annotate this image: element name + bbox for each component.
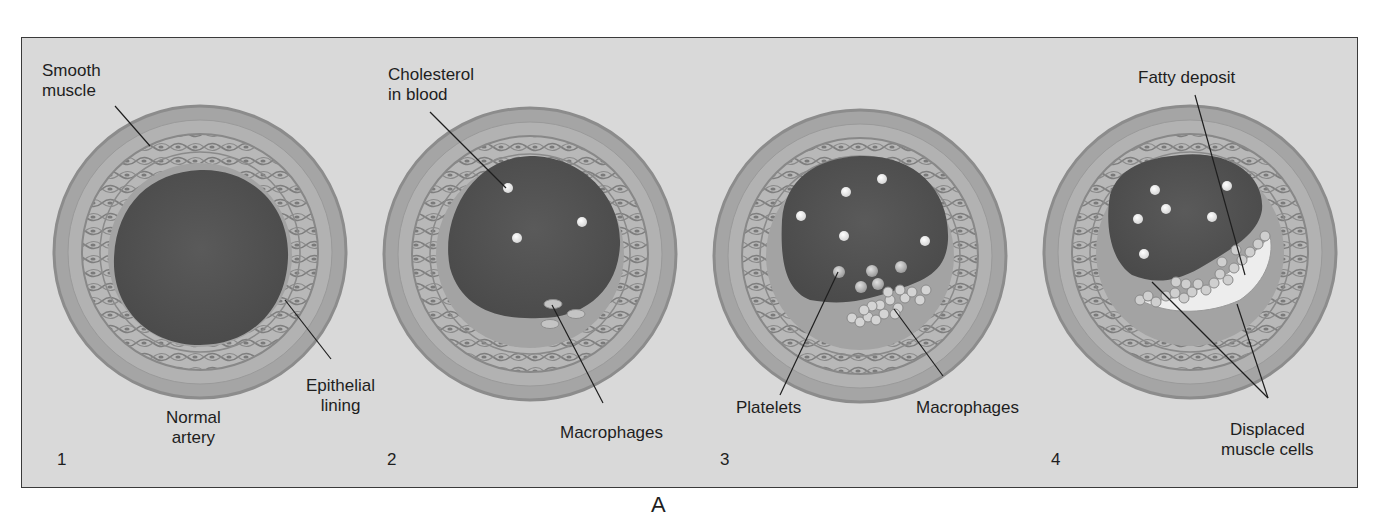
- artery-panel-4: [1044, 106, 1336, 398]
- figure-letter: A: [651, 493, 666, 512]
- label-line: Displaced: [1221, 420, 1314, 440]
- label-line: muscle cells: [1221, 440, 1314, 460]
- label-line: lining: [306, 396, 375, 416]
- caption-line: artery: [166, 428, 221, 448]
- label-macrophages-3: Macrophages: [916, 398, 1019, 418]
- caption-line: Normal: [166, 408, 221, 428]
- label-macrophages-2: Macrophages: [560, 423, 663, 443]
- caption-normal-artery: Normal artery: [166, 408, 221, 448]
- panel-number-3: 3: [720, 450, 729, 470]
- label-cholesterol-in-blood: Cholesterol in blood: [388, 65, 474, 105]
- label-smooth-muscle: Smooth muscle: [42, 61, 101, 101]
- panel-number-2: 2: [387, 450, 396, 470]
- panel-number-4: 4: [1051, 450, 1060, 470]
- label-line: Epithelial: [306, 376, 375, 396]
- label-platelets: Platelets: [736, 398, 801, 418]
- label-line: in blood: [388, 85, 474, 105]
- label-line: Cholesterol: [388, 65, 474, 85]
- label-fatty-deposit: Fatty deposit: [1138, 68, 1235, 88]
- artery-panel-3: [714, 110, 1006, 402]
- label-line: Smooth: [42, 61, 101, 81]
- cholesterol-particle: [503, 183, 513, 193]
- artery-panel-2: [384, 108, 676, 400]
- label-displaced-muscle-cells: Displaced muscle cells: [1221, 420, 1314, 460]
- artery-panel-1: [54, 106, 346, 398]
- label-line: muscle: [42, 81, 101, 101]
- panel-number-1: 1: [57, 450, 66, 470]
- label-epithelial-lining: Epithelial lining: [306, 376, 375, 416]
